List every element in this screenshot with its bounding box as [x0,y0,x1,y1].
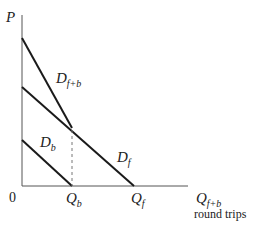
demand-diagram: P 0 Df+b Df Db Qb Qf Qf+b round trips [0,0,254,232]
curve-label-d-f-plus-b: Df+b [55,70,81,89]
origin-label: 0 [9,190,16,205]
y-axis-label: P [5,9,15,25]
curve-label-d-f: Df [116,149,132,168]
tick-label-q-f: Qf [131,190,146,209]
tick-label-q-b: Qb [66,190,82,209]
curve-d-f [22,87,134,186]
x-axis-caption: round trips [194,207,247,221]
curve-label-d-b: Db [39,134,56,153]
